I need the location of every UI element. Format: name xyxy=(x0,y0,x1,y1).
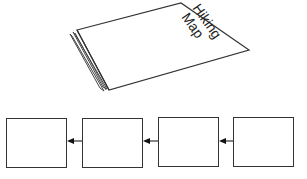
map-cover xyxy=(77,3,249,90)
flow-box-3 xyxy=(158,117,219,167)
flow-box-2 xyxy=(82,118,143,168)
arrow-head-icon xyxy=(143,138,150,144)
arrow-head-icon xyxy=(219,138,226,144)
flow-box-4 xyxy=(233,117,294,167)
flow-box-1 xyxy=(6,118,67,168)
arrow-head-icon xyxy=(67,138,74,144)
